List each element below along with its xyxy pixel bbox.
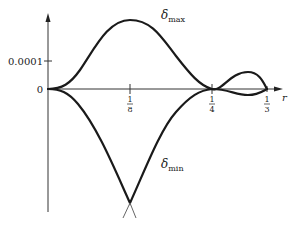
svg-text:1: 1 [264, 95, 269, 104]
x-axis-label: r [282, 92, 288, 103]
svg-text:4: 4 [209, 105, 214, 114]
svg-text:8: 8 [127, 105, 132, 114]
delta-min-extension-right [130, 203, 136, 218]
svg-text:1: 1 [209, 95, 214, 104]
x-axis-arrow-icon [274, 87, 283, 92]
y-tick-label-0.0001: 0.0001 [8, 56, 43, 67]
y-axis-arrow-icon [46, 13, 51, 22]
chart-canvas: 0.0001 0 1 8 1 4 1 3 r δmax δmin [0, 0, 302, 226]
delta-min-curve [48, 89, 267, 203]
y-tick-label-0: 0 [37, 84, 43, 95]
delta-min-label: δmin [161, 157, 184, 173]
delta-max-label: δmax [161, 8, 186, 24]
svg-text:1: 1 [127, 95, 132, 104]
delta-min-extension-left [123, 203, 130, 218]
svg-text:3: 3 [264, 105, 269, 114]
delta-max-curve [48, 20, 267, 89]
